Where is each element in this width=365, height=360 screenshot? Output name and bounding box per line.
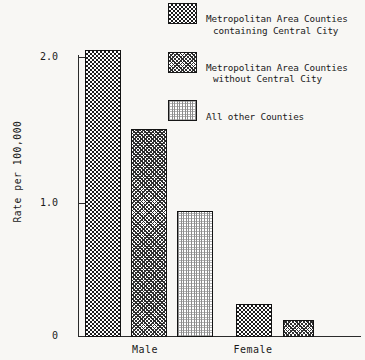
legend-item-label: Metropolitan Area Counties containing Ce… — [206, 2, 348, 48]
legend-item-line1: Metropolitan Area Counties — [206, 13, 348, 24]
x-group-label-female: Female — [223, 344, 283, 355]
y-tick-label: 1.0 — [18, 198, 58, 208]
bar-female-central-city — [236, 304, 272, 337]
bar-female-without-central — [283, 320, 314, 337]
bar-male-without-central — [131, 129, 167, 337]
legend-item: Metropolitan Area Counties containing Ce… — [168, 2, 365, 48]
y-axis-title: Rate per 100,000 — [12, 107, 23, 237]
x-group-label-male: Male — [115, 344, 175, 355]
y-tick-label: 2.0 — [18, 52, 58, 62]
bar-male-other-counties — [177, 211, 213, 337]
dark-checkerboard-swatch — [168, 3, 197, 24]
plot-area — [78, 50, 363, 337]
bar-chart: Metropolitan Area Counties containing Ce… — [0, 0, 365, 360]
y-tick-label: 0 — [18, 331, 58, 341]
legend-item-line2: containing Central City — [206, 25, 348, 36]
bar-male-central-city — [85, 50, 121, 337]
